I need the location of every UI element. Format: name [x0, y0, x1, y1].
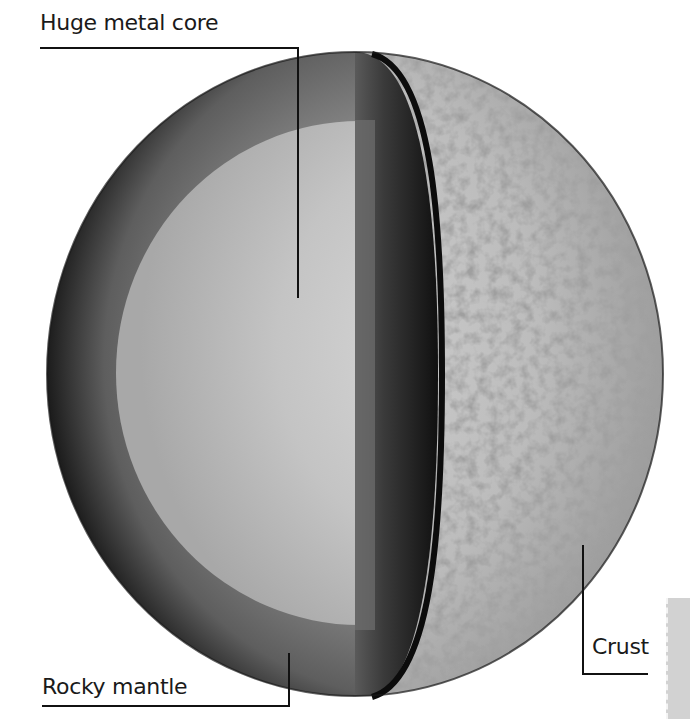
leader-line-crust-vertical — [582, 545, 584, 675]
label-crust: Crust — [592, 636, 649, 658]
planet-cutaway-diagram: Huge metal core Rocky mantle Crust — [0, 0, 690, 719]
leader-line-core-horizontal — [40, 47, 299, 49]
leader-line-crust-horizontal — [582, 673, 648, 675]
leader-line-core-vertical — [297, 47, 299, 298]
page-edge-strip — [666, 598, 690, 719]
label-rocky-mantle: Rocky mantle — [42, 676, 187, 698]
leader-line-mantle-vertical — [288, 653, 290, 707]
label-huge-metal-core: Huge metal core — [40, 12, 218, 34]
planet-illustration — [0, 0, 690, 719]
leader-line-mantle-horizontal — [42, 705, 290, 707]
